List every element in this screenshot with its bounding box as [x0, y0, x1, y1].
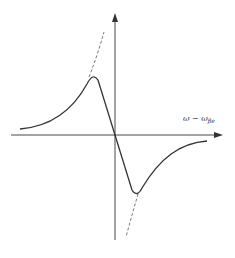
x-axis-label-subscript: βe	[208, 117, 215, 124]
dashed-asymptote-upper	[89, 32, 104, 77]
x-axis-arrow-icon	[214, 132, 223, 138]
dashed-asymptote-lower	[126, 194, 138, 237]
diagram-canvas: ω − ωβe	[0, 0, 235, 258]
x-axis-label: ω − ωβe	[183, 115, 215, 124]
x-axis-label-main: ω − ω	[183, 114, 208, 123]
diagram-svg	[0, 0, 235, 258]
y-axis-arrow-icon	[112, 13, 118, 22]
